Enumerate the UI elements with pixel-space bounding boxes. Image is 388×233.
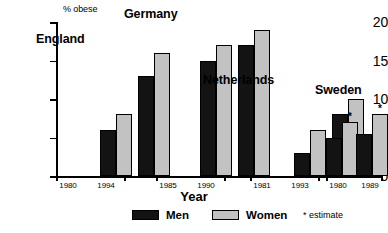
country-label-sweden: Sweden [315,84,362,97]
legend-swatch-women-icon [212,210,239,220]
x-tick-germany-end [224,176,226,181]
bar-sweden-1989-women [372,114,388,176]
legend-estimate-note: * estimate [303,209,343,221]
obesity-bar-chart: % obese 20 15 10 5 0 [0,0,388,233]
bar-sweden-1980-men [326,138,342,177]
x-axis-title: Year [0,190,388,204]
legend-item-men: Men [132,208,189,222]
legend: Men Women * estimate [0,208,388,226]
country-label-netherlands: Netherlands [203,74,274,87]
bar-sweden-1989-men [356,134,372,176]
x-axis-line [56,176,382,178]
estimate-marker-sweden-1980: * [342,112,358,122]
legend-item-women: Women [212,208,287,222]
x-tick-netherlands-end [318,176,320,181]
legend-label-men: Men [166,209,189,221]
legend-swatch-men-icon [132,210,159,220]
country-label-germany: Germany [124,8,178,21]
legend-label-women: Women [246,209,287,221]
y-axis-unit-label: % obese [63,4,97,14]
plot-area-sweden [56,22,382,176]
estimate-marker-sweden-1989: * [372,104,388,114]
x-tick-england-end [124,176,126,181]
country-label-england: England [36,33,85,46]
